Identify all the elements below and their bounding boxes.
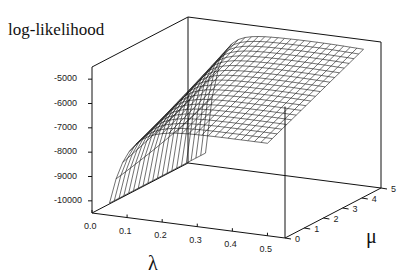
mesh-line bbox=[162, 80, 320, 176]
z-tick-label: -5000 bbox=[54, 73, 77, 83]
y-tick-label: 3 bbox=[353, 204, 358, 214]
y-tick-label: 4 bbox=[372, 194, 377, 204]
x-tick-label: 0.3 bbox=[189, 235, 202, 245]
mesh-line bbox=[175, 37, 271, 133]
mesh-line bbox=[136, 44, 232, 144]
mesh-line bbox=[241, 45, 337, 140]
y-tick-label: 0 bbox=[295, 234, 300, 244]
mesh-line bbox=[268, 49, 364, 143]
z-tick-label: -6000 bbox=[54, 98, 77, 108]
mesh-line bbox=[114, 128, 272, 200]
x-tick-label: 0.5 bbox=[259, 244, 272, 254]
mesh-line bbox=[215, 41, 311, 136]
z-tick-label: -8000 bbox=[54, 146, 77, 156]
y-axis-label: μ bbox=[366, 225, 377, 248]
mesh-line bbox=[149, 38, 245, 137]
mesh-line bbox=[202, 40, 298, 135]
y-tick-label: 2 bbox=[333, 214, 338, 224]
mesh-line bbox=[228, 43, 324, 138]
mesh-line bbox=[221, 42, 317, 137]
x-axis-label: λ bbox=[148, 252, 158, 275]
z-tick-label: -10000 bbox=[54, 195, 82, 205]
mesh-line bbox=[169, 37, 265, 134]
mesh-line bbox=[195, 39, 291, 134]
mesh-line bbox=[235, 44, 331, 139]
y-tick-label: 5 bbox=[391, 184, 396, 194]
x-tick-label: 0.0 bbox=[84, 221, 97, 231]
z-tick-label: -7000 bbox=[54, 122, 77, 132]
x-tick-label: 0.4 bbox=[224, 239, 237, 249]
z-axis-label: log-likelihood bbox=[8, 20, 104, 40]
z-tick-label: -9000 bbox=[54, 171, 77, 181]
mesh-line bbox=[182, 38, 278, 134]
mesh-line bbox=[158, 85, 316, 178]
x-tick-label: 0.2 bbox=[154, 230, 167, 240]
y-tick-label: 1 bbox=[314, 224, 319, 234]
x-tick-label: 0.1 bbox=[119, 226, 132, 236]
surface-plot bbox=[0, 0, 408, 280]
